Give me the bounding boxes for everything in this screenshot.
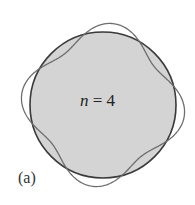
mode-variable: n xyxy=(80,91,89,110)
mode-value: 4 xyxy=(107,91,116,110)
figure-canvas: n = 4 (a) xyxy=(0,0,195,205)
mode-number-label: n = 4 xyxy=(80,92,115,109)
panel-label: (a) xyxy=(18,170,36,186)
equals-sign: = xyxy=(89,91,107,110)
